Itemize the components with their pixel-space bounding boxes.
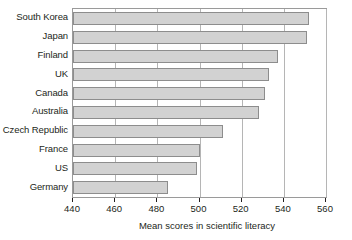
tick-label: 500 [182,203,216,214]
tick-label: 440 [55,203,89,214]
bar [73,162,197,175]
category-label: Finland [0,50,68,60]
category-label: Czech Republic [0,125,68,135]
bar [73,12,309,25]
category-label: France [0,144,68,154]
bar [73,144,200,157]
category-label: Japan [0,31,68,41]
bar [73,50,278,63]
bar [73,31,307,44]
category-label: Canada [0,88,68,98]
category-label: Germany [0,182,68,192]
bar [73,68,269,81]
category-label: Australia [0,106,68,116]
tick-mark [325,198,326,202]
category-label: UK [0,69,68,79]
tick-label: 480 [139,203,173,214]
tick-mark [199,198,200,202]
tick-mark [156,198,157,202]
bar [73,106,259,119]
tick-mark [114,198,115,202]
category-axis: South KoreaJapanFinlandUKCanadaAustralia… [0,8,68,198]
bar [73,87,265,100]
bar [73,125,223,138]
tick-mark [283,198,284,202]
plot-area [72,8,327,198]
tick-label: 520 [224,203,258,214]
tick-label: 460 [97,203,131,214]
tick-label: 560 [308,203,342,214]
tick-mark [72,198,73,202]
tick-mark [241,198,242,202]
category-label: US [0,163,68,173]
value-axis: 440460480500520540560 [72,198,327,216]
category-label: South Korea [0,12,68,22]
bar-chart: South KoreaJapanFinlandUKCanadaAustralia… [0,0,352,240]
bar [73,181,168,194]
gridline [326,9,327,197]
x-axis-title: Mean scores in scientific literacy [0,220,352,231]
tick-label: 540 [266,203,300,214]
